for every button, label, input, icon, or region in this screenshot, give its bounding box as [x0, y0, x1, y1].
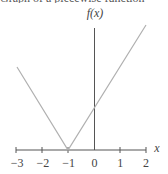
x-tick-label: 0 — [92, 156, 98, 170]
y-axis-label: f(x) — [87, 6, 104, 20]
x-tick-label: 2 — [143, 156, 149, 170]
x-tick-label: −3 — [11, 156, 24, 170]
x-tick-label: −2 — [37, 156, 50, 170]
x-tick-label: 1 — [117, 156, 123, 170]
chart-canvas: f(x) x −3−2−1012 — [0, 0, 168, 174]
x-tick-labels: −3−2−1012 — [11, 156, 149, 170]
function-line — [17, 25, 146, 150]
x-axis-label: x — [153, 141, 160, 155]
x-tick-label: −1 — [62, 156, 75, 170]
